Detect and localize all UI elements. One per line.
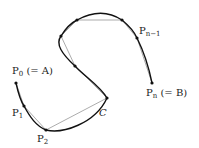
label-curve-c: C (99, 108, 107, 118)
label-pn-1: Pn−1 (139, 26, 161, 38)
curve-diagram: P0 (= A) P1 P2 Pn−1 Pn (= B) C (0, 0, 199, 148)
point-p3 (105, 96, 108, 99)
point-p2 (44, 128, 47, 131)
label-pn-1-sub: n−1 (146, 30, 161, 38)
label-pn-1-main: P (139, 25, 146, 36)
point-p0 (14, 81, 17, 84)
label-p1-main: P (12, 107, 19, 118)
label-pn: Pn (= B) (146, 88, 187, 100)
label-p2-sub: 2 (44, 138, 48, 146)
point-p6 (75, 18, 78, 21)
label-p2-main: P (37, 133, 44, 144)
label-p0-main: P (12, 65, 19, 76)
label-p0-suffix: (= A) (23, 65, 53, 76)
label-p2: P2 (37, 134, 48, 146)
label-p0: P0 (= A) (12, 66, 53, 78)
point-p5 (59, 34, 62, 37)
label-pn-suffix: (= B) (157, 87, 187, 98)
point-p4 (73, 64, 76, 67)
point-pn (150, 81, 153, 84)
point-p7 (120, 18, 123, 21)
label-p1-sub: 1 (19, 112, 23, 120)
label-pn-main: P (146, 87, 153, 98)
label-p1: P1 (12, 108, 23, 120)
